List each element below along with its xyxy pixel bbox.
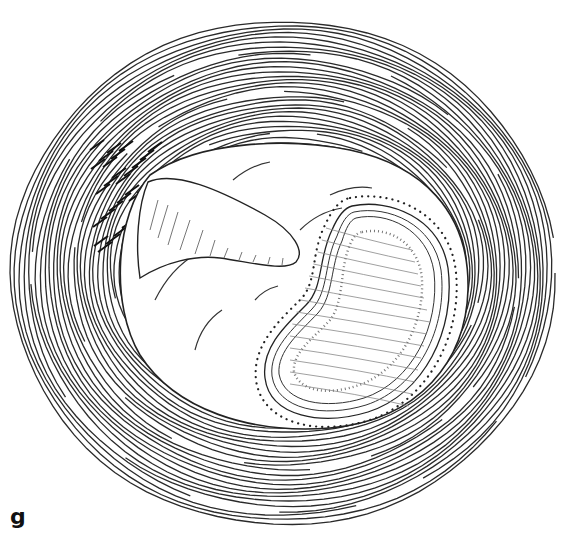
hatch-stroke — [90, 140, 104, 150]
panel-label: g — [10, 506, 26, 528]
illustration — [0, 0, 563, 540]
